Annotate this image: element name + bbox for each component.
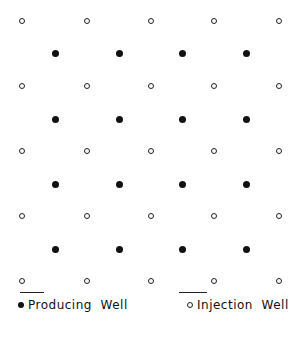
injection-well-icon xyxy=(211,83,217,89)
injection-well-icon xyxy=(148,18,154,24)
injection-well-icon xyxy=(19,148,25,154)
producing-well-icon xyxy=(52,50,59,57)
injection-well-icon xyxy=(276,213,282,219)
injection-well-icon xyxy=(148,278,154,284)
producing-well-icon xyxy=(18,302,24,308)
producing-well-icon xyxy=(243,246,250,253)
producing-well-icon xyxy=(52,246,59,253)
injection-well-icon xyxy=(276,148,282,154)
producing-well-icon xyxy=(179,50,186,57)
producing-well-icon xyxy=(179,181,186,188)
injection-well-icon xyxy=(211,148,217,154)
injection-well-icon xyxy=(84,278,90,284)
producing-well-icon xyxy=(116,116,123,123)
legend-producing-label: Producing Well xyxy=(28,298,128,312)
injection-well-icon xyxy=(148,213,154,219)
injection-well-icon xyxy=(19,213,25,219)
injection-well-icon xyxy=(84,83,90,89)
legend-divider xyxy=(20,292,44,293)
producing-well-icon xyxy=(116,50,123,57)
legend-injection-label: Injection Well xyxy=(197,298,289,312)
injection-well-icon xyxy=(276,278,282,284)
injection-well-icon xyxy=(84,148,90,154)
legend-producing: Producing Well xyxy=(18,298,128,312)
injection-well-icon xyxy=(211,278,217,284)
producing-well-icon xyxy=(179,116,186,123)
injection-well-icon xyxy=(276,83,282,89)
producing-well-icon xyxy=(116,181,123,188)
injection-well-icon xyxy=(148,148,154,154)
producing-well-icon xyxy=(243,181,250,188)
legend-divider xyxy=(179,292,207,293)
legend-injection: Injection Well xyxy=(187,298,289,312)
injection-well-icon xyxy=(187,302,193,308)
injection-well-icon xyxy=(19,18,25,24)
producing-well-icon xyxy=(52,116,59,123)
injection-well-icon xyxy=(84,213,90,219)
producing-well-icon xyxy=(52,181,59,188)
injection-well-icon xyxy=(211,213,217,219)
injection-well-icon xyxy=(84,18,90,24)
producing-well-icon xyxy=(179,246,186,253)
injection-well-icon xyxy=(148,83,154,89)
injection-well-icon xyxy=(19,278,25,284)
injection-well-icon xyxy=(19,83,25,89)
injection-well-icon xyxy=(211,18,217,24)
producing-well-icon xyxy=(116,246,123,253)
producing-well-icon xyxy=(243,50,250,57)
injection-well-icon xyxy=(276,18,282,24)
producing-well-icon xyxy=(243,116,250,123)
